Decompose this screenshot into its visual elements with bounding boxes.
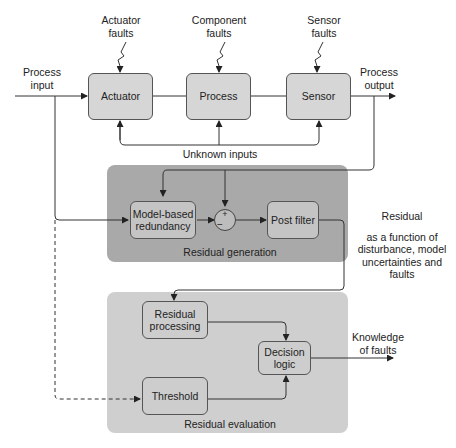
knowledge-of-faults-label: Knowledge of faults bbox=[348, 331, 408, 356]
residual-note-title: Residual bbox=[348, 210, 456, 223]
unknown-inputs-label: Unknown inputs bbox=[170, 148, 270, 161]
decision-logic-block: Decision logic bbox=[258, 341, 311, 375]
process-input-line1: Process bbox=[22, 66, 62, 79]
residual-generation-title: Residual generation bbox=[170, 246, 290, 258]
model-based-redundancy-block: Model-based redundancy bbox=[130, 201, 196, 239]
residual-note: Residual as a function of disturbance, m… bbox=[348, 210, 456, 281]
post-filter-block: Post filter bbox=[267, 201, 319, 239]
sensor-fault-arrow bbox=[315, 42, 323, 72]
residual-evaluation-title: Residual evaluation bbox=[170, 418, 290, 430]
process-block: Process bbox=[186, 73, 251, 120]
minus-sign: − bbox=[217, 219, 223, 230]
actuator-block: Actuator bbox=[88, 73, 153, 120]
process-input-line2: input bbox=[22, 79, 62, 92]
actuator-fault-arrow bbox=[118, 42, 126, 72]
component-faults-label: Component faults bbox=[189, 14, 249, 39]
sensor-block: Sensor bbox=[286, 73, 351, 120]
process-output-label: Process output bbox=[354, 66, 404, 91]
process-output-line2: output bbox=[354, 79, 404, 92]
sensor-faults-label: Sensor faults bbox=[299, 14, 349, 39]
residual-processing-block: Residual processing bbox=[142, 301, 208, 339]
process-output-line1: Process bbox=[354, 66, 404, 79]
plus-sign: + bbox=[222, 209, 227, 219]
actuator-faults-label: Actuator faults bbox=[96, 14, 146, 39]
threshold-block: Threshold bbox=[142, 377, 208, 415]
process-input-text: Process input bbox=[22, 66, 62, 91]
component-fault-arrow bbox=[217, 42, 225, 72]
